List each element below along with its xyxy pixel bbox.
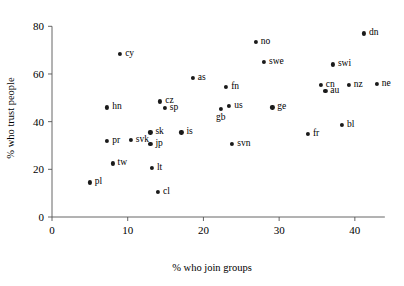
data-point-label: svk (136, 135, 149, 145)
data-point-label: fn (231, 82, 239, 92)
data-point-label: ge (277, 103, 286, 113)
scatter-chart: 010203040 020406080 % who join groups % … (0, 0, 404, 286)
data-point-marker (110, 161, 114, 165)
data-point-label: fr (313, 129, 319, 139)
data-point-marker (156, 190, 160, 194)
data-point-marker (347, 83, 351, 87)
data-point-label: nz (354, 80, 363, 90)
data-point-label: sp (170, 103, 178, 113)
data-point-marker (319, 83, 323, 87)
data-point-label: swi (338, 60, 351, 70)
data-point-label: pl (95, 178, 102, 188)
data-point-label: tw (118, 159, 128, 169)
data-point-marker (148, 142, 152, 146)
data-point-label: cl (163, 187, 170, 197)
data-point-label: jp (155, 140, 162, 150)
data-point-marker (191, 75, 195, 79)
data-point-marker (118, 52, 122, 56)
data-point-label: lt (157, 163, 162, 173)
data-point-label: no (261, 37, 271, 47)
data-point-marker (148, 130, 152, 134)
data-point-marker (262, 60, 266, 64)
data-point-marker (88, 180, 92, 184)
data-point-label: hn (112, 103, 122, 113)
data-point-marker (331, 62, 335, 66)
data-point-marker (306, 131, 310, 135)
data-point-marker (323, 89, 327, 93)
data-points-layer: plprhntwcysvkjpskltclczspisasgbfnussvnno… (0, 0, 404, 286)
data-point-label: cy (125, 49, 134, 59)
data-point-marker (129, 137, 133, 141)
data-point-marker (105, 139, 109, 143)
data-point-marker (219, 106, 223, 110)
data-point-marker (179, 130, 183, 134)
data-point-label: pr (112, 136, 120, 146)
data-point-marker (270, 105, 274, 109)
data-point-marker (362, 31, 366, 35)
data-point-label: us (234, 101, 242, 111)
data-point-marker (375, 82, 379, 86)
data-point-marker (254, 40, 258, 44)
data-point-marker (230, 142, 234, 146)
data-point-label: bl (347, 120, 354, 130)
data-point-label: au (330, 86, 339, 96)
data-point-label: gb (216, 113, 226, 123)
data-point-marker (227, 104, 231, 108)
data-point-label: swe (269, 57, 284, 67)
data-point-label: dn (369, 29, 379, 39)
data-point-marker (105, 105, 109, 109)
data-point-label: ne (382, 79, 391, 89)
data-point-label: sk (155, 128, 163, 138)
data-point-marker (150, 166, 154, 170)
data-point-marker (340, 123, 344, 127)
data-point-marker (224, 85, 228, 89)
data-point-marker (158, 99, 162, 103)
data-point-label: is (186, 128, 192, 138)
data-point-label: as (198, 73, 206, 83)
data-point-label: svn (237, 140, 250, 150)
data-point-marker (163, 106, 167, 110)
